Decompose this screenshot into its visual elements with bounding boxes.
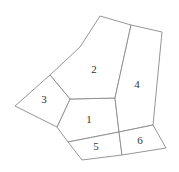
region-3-label: 3 xyxy=(41,93,47,105)
region-map-diagram: 1 2 3 4 5 6 xyxy=(0,0,179,172)
region-6-label: 6 xyxy=(137,134,143,146)
region-5-label: 5 xyxy=(93,140,99,152)
region-1-label: 1 xyxy=(86,113,92,125)
region-2-label: 2 xyxy=(91,63,97,75)
region-4-label: 4 xyxy=(134,78,140,90)
